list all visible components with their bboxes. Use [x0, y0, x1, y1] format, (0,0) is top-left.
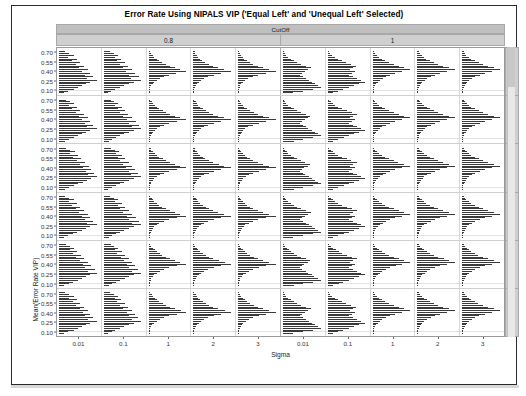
histogram-bars	[193, 242, 234, 287]
histogram-panel[interactable]	[371, 193, 416, 240]
histogram-bar	[59, 141, 65, 142]
histogram-panel[interactable]	[102, 48, 147, 95]
histogram-panel[interactable]	[415, 48, 460, 95]
histogram-panel[interactable]	[415, 289, 460, 336]
histogram-panel[interactable]	[57, 48, 102, 95]
histogram-bars	[373, 290, 414, 335]
window-shadow	[11, 385, 519, 388]
histogram-panel[interactable]	[236, 144, 281, 191]
histogram-panel[interactable]	[371, 96, 416, 143]
histogram-panel[interactable]	[326, 48, 371, 95]
histogram-panel[interactable]	[460, 96, 504, 143]
histogram-panel[interactable]	[147, 96, 192, 143]
histogram-panel[interactable]	[102, 289, 147, 336]
histogram-panel[interactable]	[415, 144, 460, 191]
histogram-bars	[462, 145, 503, 190]
histogram-panel[interactable]	[236, 241, 281, 288]
histogram-panel[interactable]	[236, 193, 281, 240]
y-axis-title-wrap: Mean(Error Rate VIP)	[24, 116, 34, 266]
histogram-panel[interactable]	[281, 48, 326, 95]
histogram-bars	[373, 194, 414, 239]
histogram-panel[interactable]	[415, 96, 460, 143]
histogram-bar	[328, 285, 333, 286]
histogram-panel[interactable]	[191, 48, 236, 95]
histogram-panel[interactable]	[147, 48, 192, 95]
histogram-panel[interactable]	[326, 96, 371, 143]
histogram-panel[interactable]	[57, 96, 102, 143]
panel-row	[57, 144, 504, 192]
histogram-panel[interactable]	[415, 193, 460, 240]
histogram-bars	[238, 49, 279, 94]
histogram-panel[interactable]	[102, 144, 147, 191]
histogram-bar	[328, 333, 333, 334]
histogram-panel[interactable]	[102, 241, 147, 288]
histogram-panel[interactable]	[371, 144, 416, 191]
histogram-panel[interactable]	[281, 289, 326, 336]
x-axis-tick-mark	[213, 337, 214, 339]
histogram-panel[interactable]	[191, 241, 236, 288]
histogram-bars	[149, 194, 190, 239]
histogram-panel[interactable]	[281, 241, 326, 288]
histogram-panel[interactable]	[57, 193, 102, 240]
x-axis-tick-label: 0.1	[101, 340, 146, 347]
histogram-panel[interactable]	[326, 144, 371, 191]
histogram-panel[interactable]	[326, 289, 371, 336]
histogram-panel[interactable]	[281, 193, 326, 240]
x-axis: 0.010.11230.010.1123	[56, 337, 505, 351]
x-axis-tick: 2	[191, 337, 236, 351]
x-axis-tick-mark	[438, 337, 439, 339]
histogram-panel[interactable]	[191, 96, 236, 143]
histogram-panel[interactable]	[236, 96, 281, 143]
histogram-panel[interactable]	[191, 193, 236, 240]
y-axis-tick-label: 0.70	[41, 49, 53, 56]
histogram-panel[interactable]	[326, 193, 371, 240]
histogram-panel[interactable]	[147, 193, 192, 240]
histogram-bars	[283, 194, 324, 239]
x-axis-tick-mark	[303, 337, 304, 339]
histogram-panel[interactable]	[415, 241, 460, 288]
histogram-bars	[417, 290, 458, 335]
histogram-panel[interactable]	[57, 241, 102, 288]
histogram-panel[interactable]	[57, 289, 102, 336]
histogram-panel[interactable]	[191, 144, 236, 191]
histogram-panel[interactable]	[371, 241, 416, 288]
histogram-panel[interactable]	[147, 289, 192, 336]
histogram-bars	[462, 49, 503, 94]
histogram-bar	[283, 141, 294, 142]
histogram-bar	[283, 92, 293, 93]
histogram-bar	[59, 333, 64, 334]
histogram-bars	[59, 194, 100, 239]
histogram-bar	[104, 285, 109, 286]
histogram-panel[interactable]	[57, 144, 102, 191]
histogram-panel[interactable]	[460, 289, 504, 336]
histogram-panel[interactable]	[102, 193, 147, 240]
histogram-panel[interactable]	[460, 241, 504, 288]
y-axis-tick-label: 0.10	[41, 328, 53, 335]
histogram-bars	[149, 290, 190, 335]
histogram-bar	[283, 333, 293, 334]
histogram-panel[interactable]	[236, 48, 281, 95]
histogram-panel[interactable]	[102, 96, 147, 143]
histogram-panel[interactable]	[147, 144, 192, 191]
histogram-panel[interactable]	[371, 48, 416, 95]
histogram-panel[interactable]	[147, 241, 192, 288]
histogram-panel[interactable]	[326, 241, 371, 288]
histogram-panel[interactable]	[281, 96, 326, 143]
y-axis-tick-label: 0.55	[41, 106, 53, 113]
histogram-bars	[417, 145, 458, 190]
histogram-panel[interactable]	[191, 289, 236, 336]
histogram-panel[interactable]	[236, 289, 281, 336]
vertical-scrollbar[interactable]	[507, 47, 515, 337]
histogram-bar	[283, 285, 294, 286]
x-axis-tick-label: 1	[370, 340, 415, 347]
cutoff-group-1: 1	[281, 34, 505, 46]
histogram-panel[interactable]	[460, 48, 504, 95]
scrollbar-thumb[interactable]	[508, 47, 515, 87]
histogram-panel[interactable]	[460, 193, 504, 240]
histogram-panel[interactable]	[460, 144, 504, 191]
histogram-bar	[328, 237, 334, 238]
y-axis-tick-label: 0.55	[41, 251, 53, 258]
histogram-panel[interactable]	[281, 144, 326, 191]
x-axis-tick-label: 3	[460, 340, 505, 347]
histogram-panel[interactable]	[371, 289, 416, 336]
